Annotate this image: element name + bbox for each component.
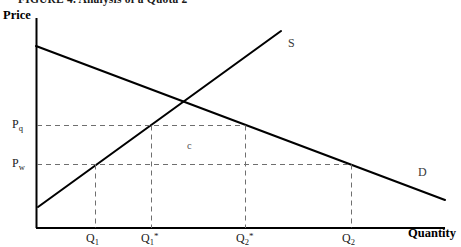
supply-demand-quota-figure: FIGURE 4. Analysis of a Quota 2 Price Qu… xyxy=(0,0,461,247)
plot-canvas xyxy=(0,0,461,247)
x-tick-q1star-sup: * xyxy=(154,231,159,241)
x-tick-q2star-sup: * xyxy=(249,231,254,241)
supply-curve xyxy=(38,31,281,207)
x-tick-q1-base: Q xyxy=(86,231,95,245)
x-tick-q2-sub: 2 xyxy=(351,237,355,247)
price-axis-title: Price xyxy=(3,8,31,23)
x-tick-label-q1-star: Q1* xyxy=(141,231,158,246)
y-tick-label-pq: Pq xyxy=(12,117,23,132)
y-tick-label-pw: Pw xyxy=(12,156,25,171)
quantity-axis-title: Quantity xyxy=(408,226,456,241)
x-tick-label-q1: Q1 xyxy=(86,231,99,246)
y-tick-pw-base: P xyxy=(12,156,19,170)
x-tick-q2-base: Q xyxy=(342,231,351,245)
demand-curve xyxy=(36,46,445,200)
supply-curve-label: S xyxy=(288,36,295,51)
x-tick-label-q2: Q2 xyxy=(342,231,355,246)
y-tick-pq-base: P xyxy=(12,117,19,131)
x-tick-q1star-base: Q xyxy=(141,231,150,245)
x-tick-q2star-base: Q xyxy=(236,231,245,245)
x-tick-q1-sub: 1 xyxy=(95,237,99,247)
demand-curve-label: D xyxy=(418,165,427,180)
y-tick-pq-sub: q xyxy=(19,123,23,133)
region-label-c: c xyxy=(187,140,192,151)
y-tick-pw-sub: w xyxy=(19,162,25,172)
x-tick-label-q2-star: Q2* xyxy=(236,231,253,246)
